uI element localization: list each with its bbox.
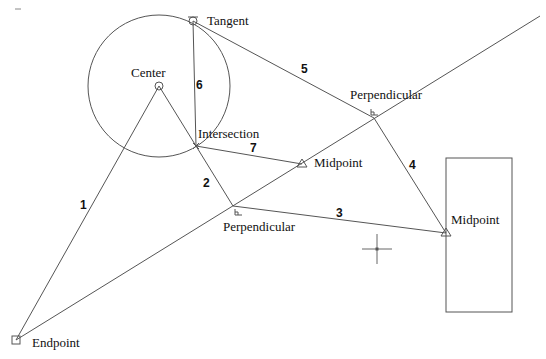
- perpendicular-icon: [371, 109, 378, 115]
- segment-5[interactable]: [193, 21, 374, 118]
- segment-number-label: 4: [409, 158, 416, 172]
- snap-label-perpendicular-upper: Perpendicular: [350, 87, 423, 102]
- segment-number-label: 7: [250, 141, 257, 155]
- geometry-layer: [16, 15, 540, 340]
- snap-label-tangent: Tangent: [207, 13, 249, 28]
- segments-layer: [16, 21, 446, 340]
- snap-label-intersection: Intersection: [198, 126, 260, 141]
- snap-label-midpoint-rect: Midpoint: [451, 212, 500, 227]
- snap-label-perpendicular-lower: Perpendicular: [223, 219, 296, 234]
- segment-number-label: 3: [336, 206, 343, 220]
- snap-label-midpoint-line: Midpoint: [314, 155, 363, 170]
- perpendicular-icon: [235, 209, 242, 215]
- segment-7[interactable]: [196, 146, 302, 164]
- segment-number-label: 6: [196, 78, 203, 92]
- crosshair-cursor-icon: [362, 234, 392, 264]
- segment-number-label: 2: [203, 176, 210, 190]
- snap-label-endpoint: Endpoint: [32, 335, 80, 350]
- snap-diagram-canvas: 1234567TangentCenterIntersectionMidpoint…: [0, 0, 546, 359]
- segment-1[interactable]: [16, 86, 159, 340]
- snap-label-center: Center: [131, 65, 166, 80]
- segment-4[interactable]: [374, 118, 446, 233]
- segment-number-label: 1: [80, 198, 87, 212]
- segment-number-label: 5: [301, 62, 308, 76]
- rectangle-shape[interactable]: [446, 158, 512, 312]
- labels-layer: 1234567TangentCenterIntersectionMidpoint…: [32, 13, 500, 350]
- construction-line[interactable]: [16, 16, 540, 340]
- snap-markers-layer: [12, 17, 451, 344]
